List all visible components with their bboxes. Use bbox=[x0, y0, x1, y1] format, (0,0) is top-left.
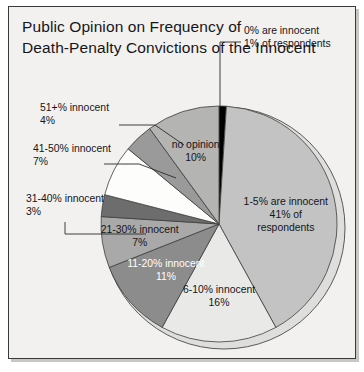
pie-chart-svg: 0% are innocent1% of respondents1-5% are… bbox=[8, 6, 356, 359]
leader-line bbox=[220, 42, 241, 106]
pie-slice-label: 31-40% innocent3% bbox=[26, 193, 104, 217]
pie-slice-label: 41-50% innocent7% bbox=[33, 143, 111, 167]
pie-slice-label: 51+% innocent4% bbox=[40, 102, 109, 126]
pie-slice-label: 0% are innocent1% of respondents bbox=[244, 25, 331, 49]
pie-chart-figure: Public Opinion on Frequency of Death-Pen… bbox=[0, 0, 364, 372]
